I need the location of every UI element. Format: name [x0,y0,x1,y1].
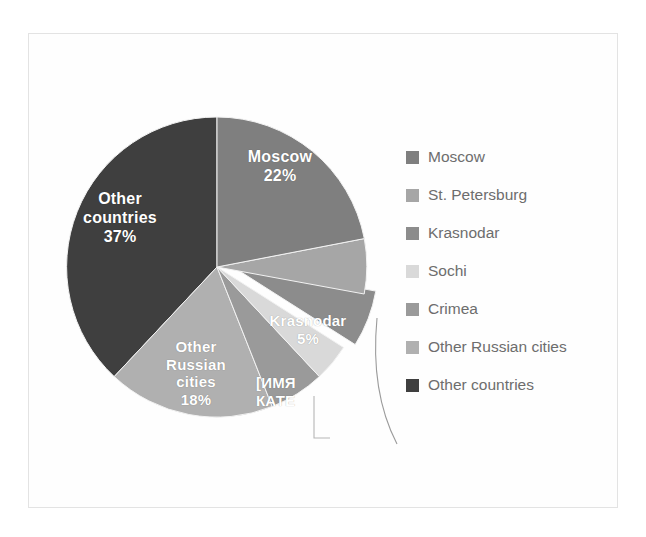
chart-legend: Moscow St. Petersburg Krasnodar Sochi Cr… [406,138,616,404]
legend-swatch-icon-crimea [406,303,419,316]
legend-swatch-icon-st-petersburg [406,189,419,202]
legend-swatch-icon-krasnodar [406,227,419,240]
legend-swatch-icon-other-russian-cities [406,341,419,354]
placeholder-leader-bracket [314,396,330,438]
legend-swatch-icon-sochi [406,265,419,278]
leader-line [376,318,397,444]
legend-label-moscow: Moscow [428,148,485,166]
chart-plot-area: Moscow 22% Other countries 37% Krasnodar… [0,0,646,537]
legend-item-sochi[interactable]: Sochi [406,252,616,290]
legend-label-sochi: Sochi [428,262,467,280]
pie-chart-figure: Moscow 22% Other countries 37% Krasnodar… [0,0,646,537]
legend-item-other-russian-cities[interactable]: Other Russian cities [406,328,616,366]
legend-item-krasnodar[interactable]: Krasnodar [406,214,616,252]
legend-label-other-countries: Other countries [428,376,534,394]
legend-label-st-petersburg: St. Petersburg [428,186,527,204]
legend-item-st-petersburg[interactable]: St. Petersburg [406,176,616,214]
legend-label-other-russian-cities: Other Russian cities [428,338,567,356]
legend-label-krasnodar: Krasnodar [428,224,500,242]
legend-item-moscow[interactable]: Moscow [406,138,616,176]
legend-item-crimea[interactable]: Crimea [406,290,616,328]
legend-swatch-icon-moscow [406,151,419,164]
legend-label-crimea: Crimea [428,300,478,318]
legend-swatch-icon-other-countries [406,379,419,392]
legend-item-other-countries[interactable]: Other countries [406,366,616,404]
